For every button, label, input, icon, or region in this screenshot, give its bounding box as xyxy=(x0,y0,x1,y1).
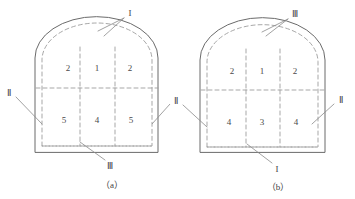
cell-label: 5 xyxy=(129,115,134,125)
annotation-label-II-b-right: Ⅱ xyxy=(339,95,343,105)
cell-label: 1 xyxy=(260,66,265,76)
diagram-b-group xyxy=(183,18,334,163)
cell-label: 4 xyxy=(227,117,232,127)
leader-b-label-II-right xyxy=(312,104,334,124)
cell-label: 2 xyxy=(128,63,133,73)
leader-b-label-III-second xyxy=(262,19,288,32)
cell-label: 5 xyxy=(62,115,67,125)
annotation-label-II-a-left: Ⅱ xyxy=(7,88,11,98)
cell-label: 4 xyxy=(95,115,100,125)
cell-label: 2 xyxy=(230,66,235,76)
annotation-label-I-a: I xyxy=(129,8,132,18)
shared-leader-group xyxy=(152,104,170,124)
cell-label: 2 xyxy=(66,63,71,73)
diagram-a-group xyxy=(16,17,158,160)
tunnel-b-inner-lining-dashed xyxy=(207,25,318,147)
subfigure-caption-b: （b） xyxy=(267,180,290,193)
leader-a-label-I-second xyxy=(98,18,124,31)
annotation-label-III-b: Ⅲ xyxy=(292,9,298,19)
annotation-label-II-shared: Ⅱ xyxy=(174,96,178,106)
leader-b-label-II-left xyxy=(183,105,207,127)
tunnel-b-outer-outline xyxy=(200,18,325,152)
leader-a-label-III xyxy=(80,142,105,160)
figure-canvas: 2 1 2 5 4 5 I Ⅱ Ⅲ 2 1 2 4 3 4 Ⅲ Ⅱ Ⅱ I （a… xyxy=(0,0,355,199)
leader-b-label-III xyxy=(266,19,288,36)
annotation-label-III-a: Ⅲ xyxy=(107,161,113,171)
leader-a-label-II-right xyxy=(152,104,170,124)
subfigure-caption-a: （a） xyxy=(101,178,123,191)
tunnel-a-inner-lining-dashed xyxy=(42,23,152,146)
cell-label: 1 xyxy=(95,63,100,73)
annotation-label-I-b: I xyxy=(276,164,279,174)
cell-label: 3 xyxy=(260,117,265,127)
cell-label: 4 xyxy=(294,117,299,127)
cell-label: 2 xyxy=(293,66,298,76)
leader-a-label-II-left xyxy=(16,97,42,124)
